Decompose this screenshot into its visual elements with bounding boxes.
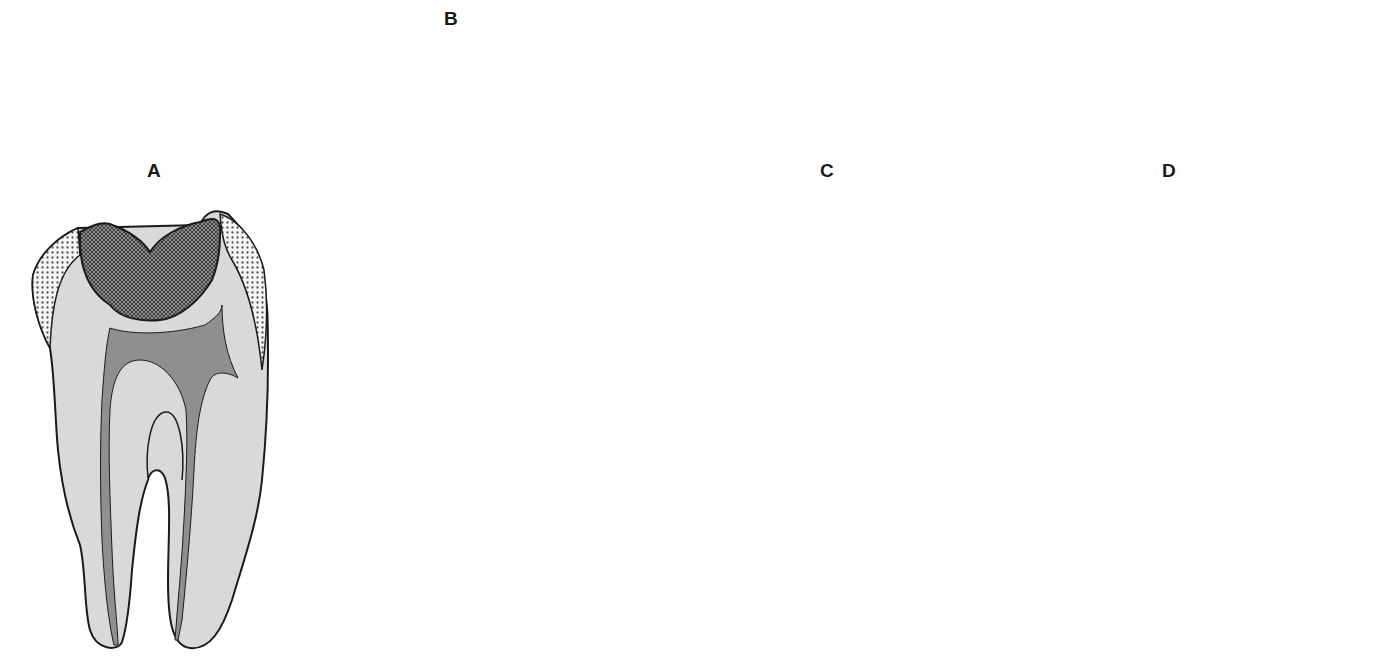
panel-label-c: C — [820, 160, 834, 182]
panel-label-d: D — [1162, 160, 1176, 182]
panel-label-b: B — [444, 8, 458, 30]
panel-label-a: A — [147, 160, 161, 182]
panel-a — [32, 211, 268, 648]
dental-figure — [0, 0, 1388, 666]
